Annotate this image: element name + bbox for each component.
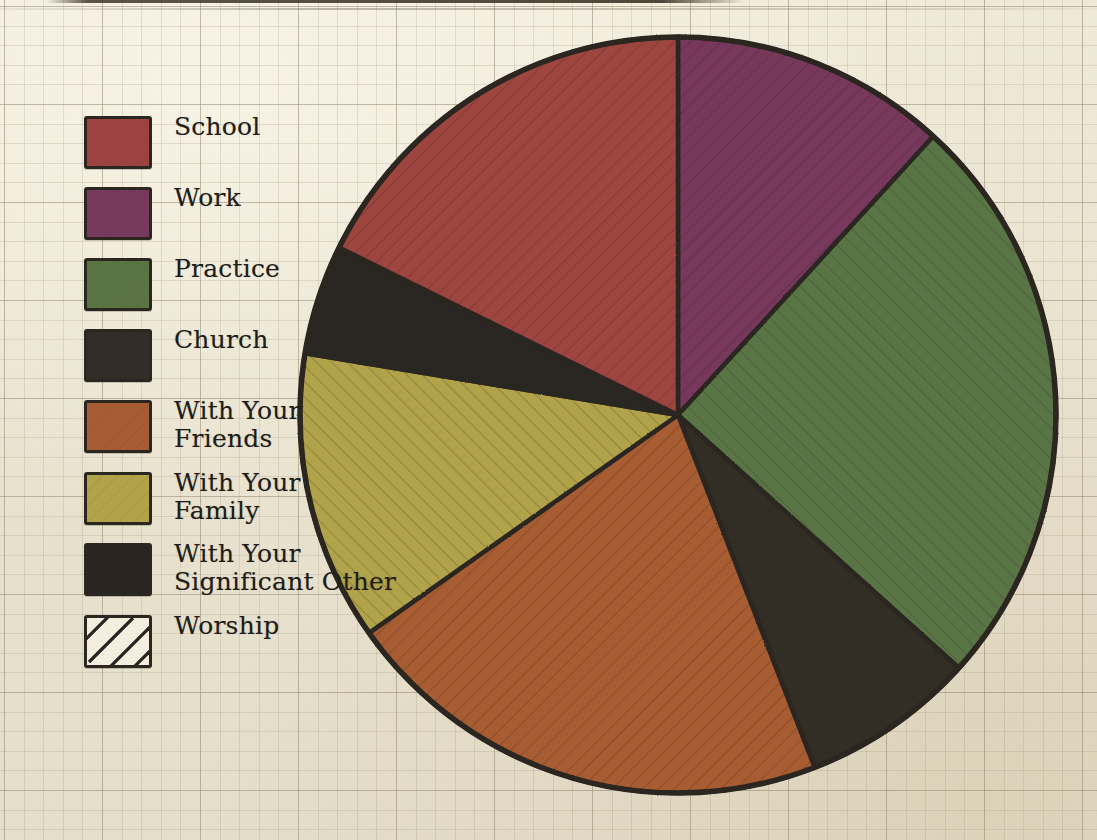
legend-label-with-your-significant-other: With Your Significant Other <box>174 539 396 597</box>
legend-label-worship: Worship <box>174 611 279 640</box>
legend-item-school[interactable]: School <box>84 112 404 169</box>
chart-legend: SchoolWorkPracticeChurchWith Your Friend… <box>84 112 404 682</box>
legend-label-with-your-family: With Your Family <box>174 468 301 526</box>
legend-swatch-school <box>84 116 152 169</box>
legend-item-with-your-family[interactable]: With Your Family <box>84 468 404 526</box>
legend-label-with-your-friends: With Your Friends <box>174 396 301 454</box>
sheet-top-edge <box>46 0 746 3</box>
legend-label-church: Church <box>174 325 269 354</box>
legend-item-worship[interactable]: Worship <box>84 611 404 668</box>
legend-item-with-your-significant-other[interactable]: With Your Significant Other <box>84 539 404 597</box>
legend-item-with-your-friends[interactable]: With Your Friends <box>84 396 404 454</box>
legend-swatch-worship <box>84 615 152 668</box>
legend-swatch-with-your-family <box>84 472 152 525</box>
legend-label-practice: Practice <box>174 254 280 283</box>
sheet-top-rule <box>0 8 1097 10</box>
legend-swatch-work <box>84 187 152 240</box>
legend-item-work[interactable]: Work <box>84 183 404 240</box>
legend-swatch-church <box>84 329 152 382</box>
legend-swatch-with-your-significant-other <box>84 543 152 596</box>
legend-swatch-practice <box>84 258 152 311</box>
legend-swatch-with-your-friends <box>84 400 152 453</box>
legend-label-work: Work <box>174 183 241 212</box>
legend-item-practice[interactable]: Practice <box>84 254 404 311</box>
legend-label-school: School <box>174 112 261 141</box>
legend-item-church[interactable]: Church <box>84 325 404 382</box>
